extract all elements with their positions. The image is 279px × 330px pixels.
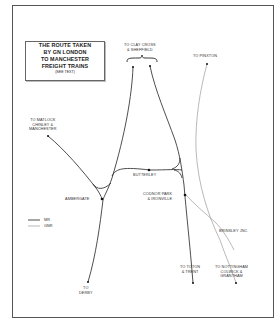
mr-codnor-curve-north bbox=[172, 158, 180, 169]
label-codnor-park: CODNOR PARK & IRONVILLE bbox=[143, 192, 172, 201]
mr-codnor-curve-south bbox=[174, 170, 182, 178]
mr-line-matlock bbox=[48, 136, 102, 199]
title-line-3: TO MANCHESTER bbox=[26, 56, 104, 63]
mr-lines bbox=[48, 55, 193, 283]
label-derby: TO DERBY bbox=[79, 286, 93, 295]
label-pinxton: TO PINXTON bbox=[193, 54, 217, 59]
legend-label-mr: MR bbox=[44, 218, 50, 222]
legend-label-gnr: GNR bbox=[44, 224, 52, 228]
dot-clay-cross-left bbox=[132, 66, 134, 68]
label-butterley: BUTTERLEY bbox=[133, 173, 156, 178]
label-toton: TO TOTON & TRENT bbox=[180, 265, 200, 274]
legend: MR GNR bbox=[28, 217, 52, 229]
dot-pinxton-end bbox=[206, 63, 208, 65]
dot-codnor-park bbox=[184, 194, 187, 197]
dot-matlock-end bbox=[47, 135, 49, 137]
dot-toton-end bbox=[192, 282, 194, 284]
dot-nottingham-end bbox=[235, 282, 237, 284]
title-line-1: THE ROUTE TAKEN bbox=[26, 42, 104, 49]
gnr-lines bbox=[186, 64, 236, 283]
gnr-line-codnor-brinsley bbox=[186, 195, 234, 250]
label-brinsley-jnc: BRINSLEY JNC bbox=[219, 229, 247, 234]
mr-line-erewash bbox=[150, 66, 193, 283]
title-note: (SEE TEXT) bbox=[26, 70, 104, 75]
title-box: THE ROUTE TAKEN BY GN LONDON TO MANCHEST… bbox=[25, 41, 105, 81]
label-matlock: TO MATLOCK CHINLEY & MANCHESTER bbox=[29, 118, 57, 132]
clay-cross-brace bbox=[127, 55, 157, 62]
mr-line-clay-cross-derby bbox=[88, 67, 133, 282]
gnr-line-pinxton bbox=[196, 64, 236, 283]
dot-ambergate bbox=[101, 198, 104, 201]
dot-butterley bbox=[148, 169, 151, 172]
label-ambergate: AMBERGATE bbox=[65, 197, 89, 202]
dot-derby-end bbox=[87, 281, 89, 283]
title-line-4: FREIGHT TRAINS bbox=[26, 63, 104, 70]
label-clay-cross: TO CLAY CROSS & SHEFFIELD bbox=[124, 43, 156, 52]
label-nottingham: TO NOTTINGHAM COLWICK & GRANTHAM bbox=[215, 265, 248, 279]
dot-clay-cross-right bbox=[149, 65, 151, 67]
legend-item-gnr: GNR bbox=[28, 223, 52, 229]
title-line-2: BY GN LONDON bbox=[26, 49, 104, 56]
